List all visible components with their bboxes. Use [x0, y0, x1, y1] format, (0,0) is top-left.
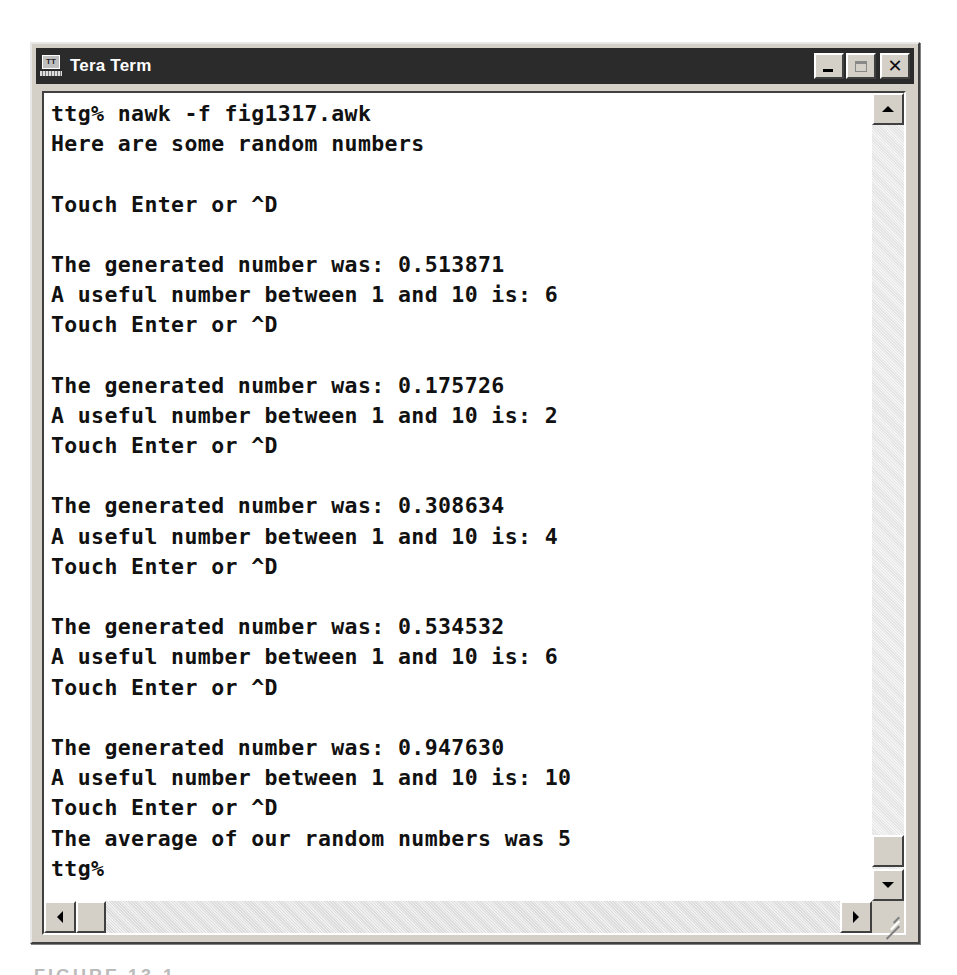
terminal-line: A useful number between 1 and 10 is: 6 — [51, 280, 872, 310]
terminal-line: ttg% nawk -f fig1317.awk — [51, 99, 872, 129]
terminal-line — [51, 582, 872, 612]
app-icon-keyboard — [40, 71, 62, 76]
figure-caption: FIGURE 13-1 — [34, 966, 176, 975]
terminal-line: The generated number was: 0.534532 — [51, 612, 872, 642]
vertical-scroll-thumb[interactable] — [872, 835, 904, 867]
terminal-line: A useful number between 1 and 10 is: 2 — [51, 401, 872, 431]
window-controls: ✕ — [814, 53, 910, 79]
terminal-line: ttg% — [51, 854, 872, 884]
terminal-line — [51, 159, 872, 189]
terminal-line — [51, 703, 872, 733]
window-title: Tera Term — [70, 56, 151, 76]
terminal-line: The generated number was: 0.947630 — [51, 733, 872, 763]
arrow-right-icon — [853, 911, 859, 923]
scroll-up-button[interactable] — [872, 93, 904, 125]
horizontal-scroll-thumb[interactable] — [76, 901, 106, 933]
terminal-line: A useful number between 1 and 10 is: 6 — [51, 642, 872, 672]
terminal-line: A useful number between 1 and 10 is: 10 — [51, 763, 872, 793]
close-icon: ✕ — [887, 57, 902, 75]
terminal-line: Touch Enter or ^D — [51, 431, 872, 461]
vertical-scrollbar[interactable] — [872, 93, 904, 901]
terminal-line: The generated number was: 0.175726 — [51, 371, 872, 401]
app-icon-screen: TT — [42, 55, 60, 69]
scroll-left-button[interactable] — [44, 901, 76, 933]
maximize-button[interactable] — [846, 53, 876, 79]
terminal-line: Touch Enter or ^D — [51, 310, 872, 340]
terminal-line: Touch Enter or ^D — [51, 552, 872, 582]
close-button[interactable]: ✕ — [880, 53, 910, 79]
terminal-line: Touch Enter or ^D — [51, 673, 872, 703]
maximize-icon — [855, 61, 867, 72]
resize-grip[interactable] — [872, 901, 904, 933]
terminal-line: The generated number was: 0.513871 — [51, 250, 872, 280]
tera-term-window: TT Tera Term ✕ ttg% nawk -f fig1317.awkH… — [30, 42, 920, 944]
arrow-up-icon — [882, 106, 894, 112]
terminal-line: Here are some random numbers — [51, 129, 872, 159]
terminal-output[interactable]: ttg% nawk -f fig1317.awkHere are some ra… — [44, 93, 872, 901]
terminal-line — [51, 341, 872, 371]
arrow-down-icon — [882, 882, 894, 888]
minimize-button[interactable] — [814, 53, 844, 79]
title-bar[interactable]: TT Tera Term ✕ — [36, 48, 914, 84]
arrow-left-icon — [57, 911, 63, 923]
terminal-line: Touch Enter or ^D — [51, 793, 872, 823]
tera-term-icon[interactable]: TT — [40, 54, 64, 78]
minimize-icon — [823, 69, 833, 72]
scroll-down-button[interactable] — [872, 869, 904, 901]
scroll-right-button[interactable] — [840, 901, 872, 933]
horizontal-scrollbar[interactable] — [44, 901, 872, 933]
terminal-line — [51, 461, 872, 491]
terminal-line: The generated number was: 0.308634 — [51, 491, 872, 521]
terminal-client-area: ttg% nawk -f fig1317.awkHere are some ra… — [42, 91, 906, 935]
terminal-line: The average of our random numbers was 5 — [51, 824, 872, 854]
terminal-line: A useful number between 1 and 10 is: 4 — [51, 522, 872, 552]
terminal-line: Touch Enter or ^D — [51, 190, 872, 220]
terminal-line — [51, 220, 872, 250]
